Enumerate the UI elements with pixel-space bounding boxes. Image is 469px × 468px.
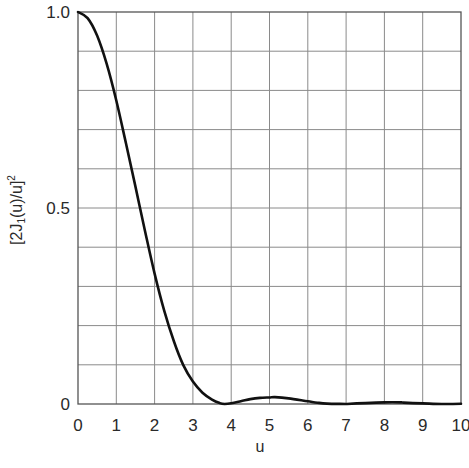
x-tick-label: 3 — [188, 416, 197, 435]
x-tick-label: 4 — [226, 416, 235, 435]
x-tick-label: 1 — [112, 416, 121, 435]
x-tick-label: 2 — [150, 416, 159, 435]
chart-canvas: 012345678910 00.51.0 u [2J1(u)/u]2 — [0, 0, 469, 468]
x-tick-label: 10 — [452, 416, 469, 435]
x-axis-label: u — [256, 438, 265, 455]
x-tick-label: 6 — [303, 416, 312, 435]
x-tick-label: 5 — [265, 416, 274, 435]
gridlines — [78, 12, 461, 404]
y-tick-label: 0.5 — [46, 199, 70, 218]
x-tick-label: 7 — [341, 416, 350, 435]
x-tick-label: 9 — [418, 416, 427, 435]
x-tick-labels: 012345678910 — [73, 416, 469, 435]
x-tick-label: 8 — [380, 416, 389, 435]
y-tick-label: 1.0 — [46, 3, 70, 22]
y-tick-label: 0 — [61, 395, 70, 414]
y-axis-label: [2J1(u)/u]2 — [6, 175, 27, 245]
x-tick-label: 0 — [73, 416, 82, 435]
y-tick-labels: 00.51.0 — [46, 3, 70, 414]
